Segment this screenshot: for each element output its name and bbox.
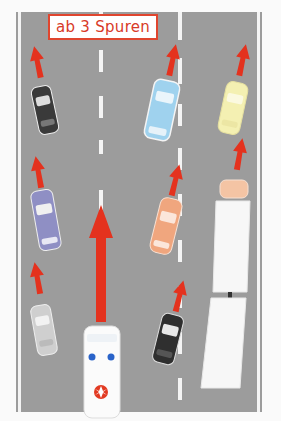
truck-cab: [220, 180, 248, 198]
car-silver-left: [30, 304, 58, 357]
arrow-icon: [28, 261, 47, 295]
blue-light-icon: [89, 354, 96, 361]
arrow-icon: [27, 45, 47, 79]
car-blue-middle: [143, 78, 181, 142]
arrow-icon: [165, 163, 186, 197]
arrow-icon: [169, 279, 190, 313]
car-black-middle: [151, 312, 184, 366]
ambulance-path-arrow-icon: [89, 205, 113, 322]
ambulance: [84, 326, 120, 418]
arrow-icon: [162, 43, 182, 77]
blue-light-icon: [108, 354, 115, 361]
truck-right: [201, 180, 250, 388]
truck-trailer-rear: [201, 298, 246, 388]
car-yellow-right: [217, 80, 249, 135]
arrow-icon: [230, 137, 249, 171]
traffic-scene: [0, 0, 281, 421]
arrow-icon: [29, 155, 48, 189]
car-purple-left: [30, 189, 62, 252]
arrow-icon: [232, 43, 252, 77]
truck-trailer-front: [213, 201, 250, 292]
car-black-left: [30, 84, 60, 135]
car-orange-middle: [149, 196, 184, 256]
